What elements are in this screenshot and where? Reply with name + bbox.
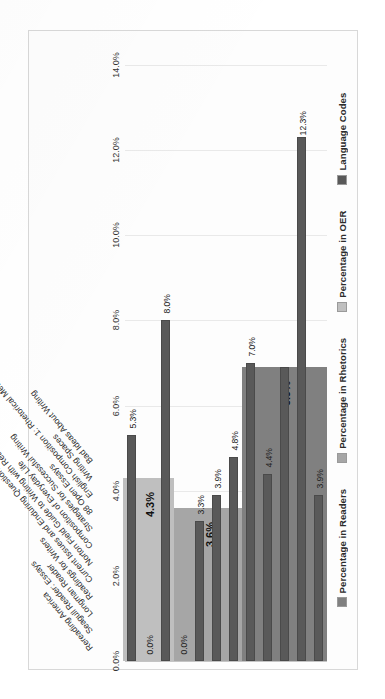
value-tick-label: 2.0%	[111, 565, 121, 586]
value-axis-ticks: 0.0%2.0%4.0%6.0%8.0%10.0%12.0%14.0%	[87, 65, 121, 659]
bar-value-label: 3.9%	[315, 468, 325, 488]
legend-swatch-icon	[337, 174, 347, 184]
bar-value-label: 3.3%	[196, 494, 206, 514]
legend-item[interactable]: Percentage in Rhetorics	[336, 337, 347, 462]
gridline	[125, 65, 327, 66]
legend-item[interactable]: Language Codes	[336, 92, 347, 184]
bar-value-label: 4.8%	[230, 430, 240, 450]
legend-label: Language Codes	[336, 92, 347, 170]
bar[interactable]	[246, 363, 255, 661]
legend-item[interactable]: Percentage in Readers	[336, 488, 347, 607]
bar[interactable]	[229, 456, 238, 660]
bar-value-label: 7.0%	[247, 337, 257, 357]
bar[interactable]	[297, 137, 306, 661]
legend-label: Percentage in Rhetorics	[336, 337, 347, 448]
chart-legend: Percentage in ReadersPercentage in Rheto…	[333, 31, 351, 669]
legend-label: Percentage in Readers	[336, 488, 347, 593]
bar-value-label: 5.3%	[128, 409, 138, 429]
chart-frame: Percentage in ReadersPercentage in Rheto…	[28, 30, 358, 670]
bar[interactable]	[127, 435, 136, 661]
bar-value-label: 8.0%	[162, 294, 172, 314]
bar[interactable]	[195, 520, 204, 660]
group-value-label: 4.3%	[144, 491, 156, 516]
legend-label: Percentage in OER	[336, 210, 347, 297]
bar[interactable]	[280, 367, 289, 661]
scanned-page: Percentage in ReadersPercentage in Rheto…	[0, 0, 385, 699]
value-tick-label: 0.0%	[111, 650, 121, 671]
category-axis-labels: Rereading AmericaSeagull Reader: EssaysL…	[29, 65, 89, 659]
legend-item[interactable]: Percentage in OER	[336, 210, 347, 311]
bar[interactable]	[161, 320, 170, 661]
bar-value-label: 0.0%	[179, 635, 189, 655]
bar-value-label: 4.4%	[264, 447, 274, 467]
bar[interactable]	[314, 494, 323, 660]
value-tick-label: 14.0%	[111, 52, 121, 78]
bar-value-label: 3.9%	[213, 468, 223, 488]
plot-inner: 6.9%3.9%12.3%4.4%7.0%3.6%4.8%3.9%3.3%0.0…	[125, 65, 327, 659]
value-tick-label: 6.0%	[111, 395, 121, 416]
value-tick-label: 4.0%	[111, 480, 121, 501]
bar-value-label: 12.3%	[298, 111, 308, 135]
value-tick-label: 12.0%	[111, 137, 121, 163]
legend-swatch-icon	[337, 597, 347, 607]
bar[interactable]	[263, 473, 272, 660]
legend-swatch-icon	[337, 301, 347, 311]
value-tick-label: 8.0%	[111, 310, 121, 331]
bar[interactable]	[212, 494, 221, 660]
value-tick-label: 10.0%	[111, 222, 121, 248]
rotated-chart-wrapper: Percentage in ReadersPercentage in Rheto…	[28, 30, 358, 670]
bar-value-label: 0.0%	[145, 635, 155, 655]
plot-area: 6.9%3.9%12.3%4.4%7.0%3.6%4.8%3.9%3.3%0.0…	[125, 65, 327, 659]
legend-swatch-icon	[337, 452, 347, 462]
